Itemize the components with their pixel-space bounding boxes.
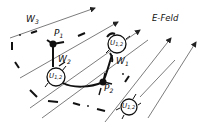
electric-field-diagram: E-Feld W3 P1 W2 W1 P2 U1,2 U1,2 U1,2 — [0, 0, 206, 135]
w3-label: W3 — [26, 15, 39, 25]
p1-label: P1 — [54, 29, 63, 39]
meter-top-label: U1,2 — [110, 40, 123, 47]
field-line-2 — [20, 22, 118, 78]
meter-bottom-label: U1,2 — [122, 103, 135, 110]
meter-left-label: U1,2 — [49, 73, 62, 80]
w1-label: W1 — [116, 57, 129, 67]
p2-label: P2 — [104, 84, 113, 94]
w2-label: W2 — [58, 55, 71, 65]
field-line-7 — [140, 60, 175, 97]
point-p1-marker — [47, 40, 64, 48]
field-lines — [10, 8, 196, 122]
e-field-label: E-Feld — [152, 14, 178, 23]
field-line-6 — [148, 42, 196, 118]
